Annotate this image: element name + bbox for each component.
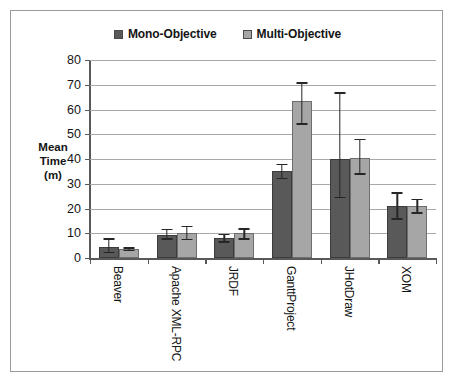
bar-slot [214,60,234,258]
error-bar-cap-top [392,192,403,193]
x-category-label: JHotDraw [342,266,356,317]
error-bar-cap-top [276,164,287,165]
error-bar-line [166,229,167,238]
x-tick-mark [321,258,322,264]
error-bar-cap-bottom [334,197,345,198]
bar-slot [272,60,292,258]
bar[interactable] [272,171,292,258]
legend-item: Multi-Objective [243,27,342,41]
x-category-label: Beaver [111,266,125,303]
y-tick-label: 80 [67,53,81,67]
error-bar-line [396,192,397,218]
x-category-label: XOM [399,266,413,293]
x-tick-mark [378,258,379,264]
error-bar-cap-top [412,199,423,200]
error-bar-cap-bottom [412,212,423,213]
chart-frame: Mono-ObjectiveMulti-Objective MeanTime(m… [10,10,443,372]
bar[interactable] [407,206,427,258]
y-tick-label: 0 [74,251,81,265]
bar-group [90,60,148,258]
x-category-label: JRDF [226,266,240,296]
error-bar-line [281,164,282,178]
error-bar-line [243,228,244,238]
plot-area: 01020304050607080 BeaverApache XML-RPCJR… [90,60,436,258]
bar-group [263,60,321,258]
bar-group-bars [205,60,263,258]
bar-slot [407,60,427,258]
bar-group [205,60,263,258]
error-bar-cap-bottom [239,238,250,239]
bar-slot [157,60,177,258]
error-bar-cap-bottom [123,250,134,251]
y-tick-label: 10 [67,226,81,240]
error-bar-cap-top [239,228,250,229]
y-tick-label: 20 [67,202,81,216]
y-tick-label: 30 [67,177,81,191]
error-bar-line [108,238,109,252]
bar-group [321,60,379,258]
error-bar-cap-bottom [219,241,230,242]
y-tick-label: 40 [67,152,81,166]
bar-group-bars [263,60,321,258]
bar-group [378,60,436,258]
error-bar-cap-top [103,238,114,239]
x-tick-mark [90,258,91,264]
bar-group-bars [378,60,436,258]
error-bar-cap-bottom [103,252,114,253]
bar-slot [99,60,119,258]
error-bar-cap-bottom [161,238,172,239]
x-tick-mark [263,258,264,264]
error-bar-line [359,139,360,174]
bar-slot [292,60,312,258]
error-bar-cap-bottom [354,173,365,174]
y-tick-label: 50 [67,127,81,141]
error-bar-cap-top [123,247,134,248]
bar-group-bars [321,60,379,258]
bar-slot [330,60,350,258]
x-tick-mark [436,258,437,264]
error-bar-line [416,199,417,213]
chart-legend: Mono-ObjectiveMulti-Objective [11,27,444,41]
bar-slot [387,60,407,258]
y-tick-label: 60 [67,103,81,117]
error-bar-line [186,226,187,239]
legend-label: Multi-Objective [257,27,342,41]
error-bar-cap-top [354,139,365,140]
y-tick-label: 70 [67,78,81,92]
error-bar-cap-top [161,229,172,230]
legend-swatch-icon [114,30,123,39]
bar-group-bars [90,60,148,258]
bar-group [148,60,206,258]
bar-slot [177,60,197,258]
error-bar-cap-top [181,226,192,227]
x-category-label: GanttProject [284,266,298,330]
error-bar-cap-bottom [181,239,192,240]
legend-label: Mono-Objective [128,27,217,41]
error-bar-cap-top [219,234,230,235]
error-bar-cap-top [334,92,345,93]
error-bar-line [301,82,302,123]
x-category-label: Apache XML-RPC [169,266,183,361]
error-bar-line [339,92,340,196]
bar-slot [234,60,254,258]
error-bar-cap-bottom [392,218,403,219]
bar-slot [119,60,139,258]
error-bar-cap-bottom [276,178,287,179]
legend-swatch-icon [243,30,252,39]
error-bar-cap-bottom [296,123,307,124]
bar-slot [350,60,370,258]
error-bar-cap-top [296,82,307,83]
bar-group-bars [148,60,206,258]
legend-item: Mono-Objective [114,27,217,41]
chart-screenshot: Mono-ObjectiveMulti-Objective MeanTime(m… [0,0,453,385]
x-tick-mark [148,258,149,264]
bar-groups [90,60,436,258]
x-tick-mark [205,258,206,264]
